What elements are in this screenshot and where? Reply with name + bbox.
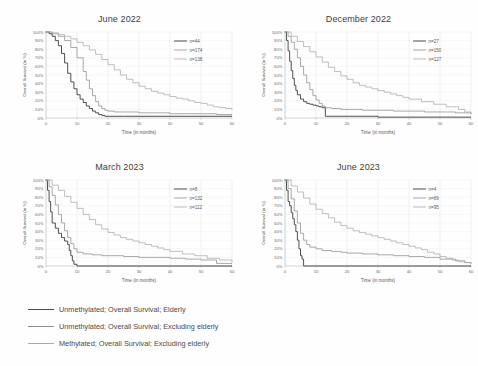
svg-text:60%: 60% (274, 64, 283, 69)
svg-text:20%: 20% (35, 246, 44, 251)
svg-text:Time (in months): Time (in months) (361, 130, 396, 135)
panel-june-2022: June 2022 0%10%20%30%40%50%60%70%80%90%1… (0, 4, 239, 150)
plot-area: 0%10%20%30%40%50%60%70%80%90%100%0102030… (239, 4, 478, 150)
legend-item: Unmethylated; Overall Survival; Elderly (28, 301, 328, 318)
legend-line-icon (28, 326, 54, 327)
svg-text:n=4: n=4 (429, 187, 437, 192)
legend-line-icon (28, 309, 54, 310)
svg-text:50%: 50% (35, 73, 44, 78)
svg-text:60: 60 (230, 121, 235, 126)
svg-text:Overall Survival (in %): Overall Survival (in %) (261, 53, 266, 97)
legend-label: Unmethylated; Overall Survival; Elderly (59, 305, 186, 314)
svg-text:50: 50 (199, 121, 204, 126)
svg-text:0: 0 (284, 269, 287, 274)
svg-text:10: 10 (314, 121, 319, 126)
svg-text:Time (in months): Time (in months) (361, 278, 396, 283)
svg-text:0%: 0% (276, 264, 282, 269)
svg-text:80%: 80% (274, 47, 283, 52)
svg-text:n=8: n=8 (190, 187, 198, 192)
svg-text:40: 40 (407, 121, 412, 126)
svg-text:100%: 100% (272, 178, 283, 183)
svg-text:n=174: n=174 (190, 48, 203, 53)
svg-text:80%: 80% (35, 47, 44, 52)
svg-text:70%: 70% (35, 203, 44, 208)
figure-legend: Unmethylated; Overall Survival; Elderly … (28, 301, 328, 352)
svg-text:n=44: n=44 (190, 39, 201, 44)
svg-text:20: 20 (345, 121, 350, 126)
figure-sheet: June 2022 0%10%20%30%40%50%60%70%80%90%1… (0, 0, 478, 366)
svg-text:30: 30 (376, 121, 381, 126)
svg-text:90%: 90% (274, 38, 283, 43)
svg-text:30: 30 (137, 121, 142, 126)
svg-text:30%: 30% (274, 238, 283, 243)
svg-text:60%: 60% (35, 64, 44, 69)
legend-label: Unmethylated; Overall Survival; Excludin… (59, 322, 218, 331)
svg-text:90%: 90% (35, 186, 44, 191)
svg-text:10%: 10% (274, 255, 283, 260)
svg-text:10%: 10% (35, 107, 44, 112)
svg-text:50%: 50% (35, 221, 44, 226)
svg-text:20%: 20% (274, 246, 283, 251)
svg-text:Time (in months): Time (in months) (122, 278, 157, 283)
svg-text:50: 50 (438, 121, 443, 126)
svg-text:Overall Survival (in %): Overall Survival (in %) (22, 201, 27, 245)
svg-text:60: 60 (469, 121, 474, 126)
svg-text:n=150: n=150 (429, 48, 442, 53)
svg-text:40%: 40% (35, 229, 44, 234)
legend-line-icon (28, 343, 54, 344)
svg-text:0%: 0% (37, 264, 43, 269)
svg-text:n=27: n=27 (429, 39, 440, 44)
legend-item: Methylated; Overall Survival; Excluding … (28, 335, 328, 352)
legend-label: Methylated; Overall Survival; Excluding … (59, 339, 209, 348)
svg-text:70%: 70% (274, 203, 283, 208)
svg-text:40%: 40% (274, 229, 283, 234)
svg-text:80%: 80% (35, 195, 44, 200)
svg-text:40%: 40% (35, 81, 44, 86)
svg-text:80%: 80% (274, 195, 283, 200)
svg-text:10: 10 (75, 121, 80, 126)
svg-text:100%: 100% (272, 30, 283, 35)
plot-area: 0%10%20%30%40%50%60%70%80%90%100%0102030… (239, 152, 478, 298)
panel-june-2023: June 2023 0%10%20%30%40%50%60%70%80%90%1… (239, 152, 478, 298)
svg-text:0%: 0% (37, 116, 43, 121)
svg-text:n=127: n=127 (429, 57, 442, 62)
svg-text:20: 20 (345, 269, 350, 274)
svg-text:90%: 90% (35, 38, 44, 43)
svg-text:40: 40 (168, 269, 173, 274)
svg-text:40%: 40% (274, 81, 283, 86)
svg-text:30%: 30% (35, 238, 44, 243)
svg-text:30%: 30% (35, 90, 44, 95)
panel-december-2022: December 2022 0%10%20%30%40%50%60%70%80%… (239, 4, 478, 150)
svg-text:60%: 60% (274, 212, 283, 217)
svg-text:30: 30 (376, 269, 381, 274)
svg-text:70%: 70% (35, 55, 44, 60)
svg-text:20: 20 (106, 121, 111, 126)
svg-text:70%: 70% (274, 55, 283, 60)
svg-text:0: 0 (45, 269, 48, 274)
svg-text:100%: 100% (33, 30, 44, 35)
svg-text:0%: 0% (276, 116, 282, 121)
svg-text:60: 60 (469, 269, 474, 274)
svg-text:10: 10 (75, 269, 80, 274)
legend-item: Unmethylated; Overall Survival; Excludin… (28, 318, 328, 335)
svg-text:n=112: n=112 (190, 205, 203, 210)
svg-text:40: 40 (407, 269, 412, 274)
svg-text:10: 10 (314, 269, 319, 274)
svg-text:10%: 10% (35, 255, 44, 260)
plot-area: 0%10%20%30%40%50%60%70%80%90%100%0102030… (0, 152, 239, 298)
svg-text:100%: 100% (33, 178, 44, 183)
svg-text:50: 50 (438, 269, 443, 274)
panel-grid: June 2022 0%10%20%30%40%50%60%70%80%90%1… (0, 4, 478, 296)
svg-text:0: 0 (45, 121, 48, 126)
svg-text:30%: 30% (274, 90, 283, 95)
svg-text:20%: 20% (274, 98, 283, 103)
svg-text:90%: 90% (274, 186, 283, 191)
svg-text:Overall Survival (in %): Overall Survival (in %) (261, 201, 266, 245)
svg-text:n=132: n=132 (190, 196, 203, 201)
svg-text:50%: 50% (274, 221, 283, 226)
svg-text:Overall Survival (in %): Overall Survival (in %) (22, 53, 27, 97)
svg-text:Time (in months): Time (in months) (122, 130, 157, 135)
svg-text:20: 20 (106, 269, 111, 274)
svg-text:30: 30 (137, 269, 142, 274)
panel-march-2023: March 2023 0%10%20%30%40%50%60%70%80%90%… (0, 152, 239, 298)
